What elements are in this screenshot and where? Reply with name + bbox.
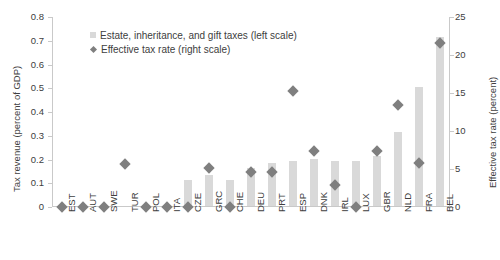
- x-axis-tick-label: EST: [66, 194, 77, 212]
- bar: [373, 156, 381, 206]
- legend-bar-swatch-icon: [90, 32, 96, 38]
- y-axis-left-tick-label: 0.4: [18, 107, 44, 117]
- y-axis-left-tick-label: 0.2: [18, 155, 44, 165]
- y-axis-left-tick: [48, 183, 52, 184]
- y-axis-right-spine: [449, 17, 450, 207]
- x-axis-tick-label: AUT: [87, 193, 98, 212]
- y-axis-left-tick-label: 0.5: [18, 83, 44, 93]
- bar: [436, 37, 444, 206]
- y-axis-left-tick-label: 0.8: [18, 12, 44, 22]
- y-axis-left-tick: [48, 160, 52, 161]
- x-axis-tick-label: SWE: [108, 190, 119, 212]
- y-axis-left-tick-label: 0.1: [18, 178, 44, 188]
- chart-legend: Estate, inheritance, and gift taxes (lef…: [90, 28, 297, 56]
- y-axis-left-tick: [48, 112, 52, 113]
- y-axis-left-tick: [48, 41, 52, 42]
- legend-diamond-marker-icon: [90, 45, 97, 52]
- x-axis-tick-label: LUX: [360, 194, 371, 212]
- legend-item-marker: Effective tax rate (right scale): [90, 42, 297, 56]
- y-axis-left-tick-label: 0.6: [18, 60, 44, 70]
- scatter-marker: [287, 85, 298, 96]
- y-axis-left-tick: [48, 88, 52, 89]
- y-axis-left-tick: [48, 207, 52, 208]
- bar: [310, 159, 318, 207]
- y-axis-right-title: Effective tax rate (percent): [487, 77, 498, 188]
- y-axis-right-tick: [450, 93, 454, 94]
- x-axis-tick-label: NLD: [402, 193, 413, 212]
- y-axis-right-tick-label: 15: [455, 88, 481, 98]
- y-axis-right-tick-label: 5: [455, 164, 481, 174]
- x-axis-tick-label: BEL: [444, 194, 455, 212]
- y-axis-right-tick-label: 25: [455, 12, 481, 22]
- bar: [394, 132, 402, 206]
- x-axis-tick-label: CHE: [234, 192, 245, 212]
- y-axis-right-tick-label: 10: [455, 126, 481, 136]
- x-axis-tick-label: TUR: [129, 192, 140, 212]
- scatter-marker: [203, 163, 214, 174]
- y-axis-left-tick: [48, 136, 52, 137]
- chart-container: Tax revenue (percent of GDP) Effective t…: [0, 0, 500, 260]
- scatter-marker: [392, 100, 403, 111]
- legend-item-label: Effective tax rate (right scale): [101, 44, 230, 55]
- y-axis-left-tick-label: 0.7: [18, 36, 44, 46]
- bar: [205, 175, 213, 206]
- x-axis-tick-label: FRA: [423, 193, 434, 212]
- y-axis-left-tick-label: 0: [18, 202, 44, 212]
- bar: [352, 161, 360, 206]
- bar: [289, 161, 297, 206]
- scatter-marker: [371, 145, 382, 156]
- y-axis-right-tick: [450, 169, 454, 170]
- x-axis-tick-label: POL: [150, 193, 161, 212]
- y-axis-right-tick-label: 0: [455, 202, 481, 212]
- y-axis-left-tick: [48, 17, 52, 18]
- x-axis-tick-label: ITA: [171, 198, 182, 212]
- bar: [415, 87, 423, 206]
- y-axis-right-tick: [450, 17, 454, 18]
- x-axis-tick-label: GRC: [213, 191, 224, 212]
- y-axis-left-tick: [48, 65, 52, 66]
- legend-item-bar: Estate, inheritance, and gift taxes (lef…: [90, 28, 297, 42]
- scatter-marker: [120, 159, 131, 170]
- y-axis-left-spine: [52, 17, 53, 207]
- y-axis-left-tick-label: 0.3: [18, 131, 44, 141]
- x-axis-tick-label: PRT: [276, 193, 287, 212]
- legend-item-label: Estate, inheritance, and gift taxes (lef…: [100, 30, 297, 41]
- x-axis-tick-label: ESP: [297, 193, 308, 212]
- y-axis-right-tick: [450, 55, 454, 56]
- x-axis-tick-label: CZE: [192, 193, 203, 212]
- x-axis-tick-label: GBR: [381, 191, 392, 212]
- y-axis-right-tick-label: 20: [455, 50, 481, 60]
- x-axis-tick-label: DNK: [318, 192, 329, 212]
- y-axis-right-tick: [450, 131, 454, 132]
- scatter-marker: [308, 145, 319, 156]
- x-axis-tick-label: DEU: [255, 192, 266, 212]
- x-axis-tick-label: IRL: [339, 197, 350, 212]
